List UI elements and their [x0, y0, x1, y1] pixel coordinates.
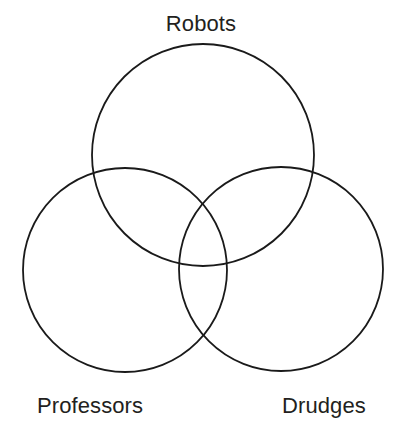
venn-label-robots: Robots	[0, 13, 402, 35]
venn-label-drudges: Drudges	[282, 395, 366, 417]
venn-diagram-canvas	[0, 0, 402, 439]
diagram-background	[0, 0, 402, 439]
venn-label-professors: Professors	[37, 395, 143, 417]
venn-diagram-figure: Robots Professors Drudges	[0, 0, 402, 439]
